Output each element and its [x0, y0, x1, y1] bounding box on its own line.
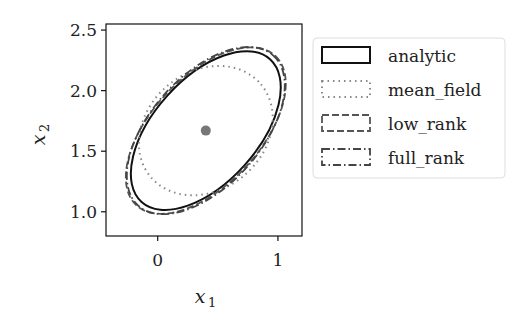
x-axis-subscript: 1: [208, 295, 216, 310]
plot-area: 1.01.52.02.501x1x2analyticmean_fieldlow_…: [27, 19, 505, 310]
y-axis-subscript: 2: [37, 124, 52, 132]
x-tick-label: 1: [273, 250, 284, 270]
chart: 1.01.52.02.501x1x2analyticmean_fieldlow_…: [0, 0, 527, 322]
legend-label-mean-field: mean_field: [388, 80, 482, 100]
legend-label-analytic: analytic: [388, 46, 456, 66]
x-axis-label: x: [195, 285, 206, 307]
x-tick-label: 0: [152, 250, 163, 270]
y-tick-label: 2.5: [70, 20, 97, 40]
y-tick-label: 1.0: [70, 202, 97, 222]
legend-label-low-rank: low_rank: [388, 114, 467, 134]
y-axis-label: x: [27, 134, 49, 145]
y-tick-label: 2.0: [70, 81, 97, 101]
legend-label-full-rank: full_rank: [388, 148, 465, 168]
center-point: [201, 126, 211, 136]
y-tick-label: 1.5: [70, 141, 97, 161]
